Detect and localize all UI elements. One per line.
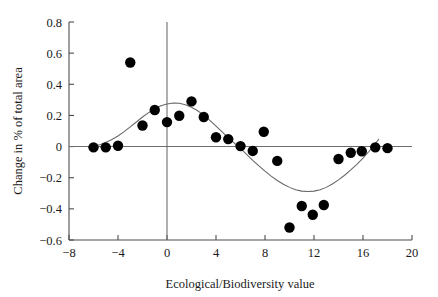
y-tick-label: 0.4	[46, 78, 62, 92]
y-tick-label: 0.2	[46, 109, 62, 123]
x-tick-marks	[69, 235, 412, 240]
x-tick-label: 4	[213, 246, 220, 260]
x-tick-label: 16	[357, 246, 370, 260]
y-tick-label: −0.4	[39, 202, 62, 216]
data-point	[125, 57, 135, 67]
data-point	[88, 142, 98, 152]
data-point	[297, 201, 307, 211]
y-tick-marks	[69, 22, 74, 240]
x-axis-label: Ecological/Biodiversity value	[166, 277, 315, 291]
data-point	[284, 222, 294, 232]
data-point	[357, 146, 367, 156]
data-point	[382, 143, 392, 153]
data-points	[88, 57, 392, 232]
scatter-plot: −8−4048121620 −0.6−0.4−0.200.20.40.60.8 …	[0, 0, 438, 297]
data-point	[333, 154, 343, 164]
x-tick-label: −4	[111, 246, 125, 260]
data-point	[186, 96, 196, 106]
y-tick-label: −0.6	[39, 234, 62, 248]
y-tick-labels: −0.6−0.4−0.200.20.40.60.8	[39, 16, 62, 248]
data-point	[162, 117, 172, 127]
data-point	[272, 156, 282, 166]
x-tick-label: 8	[262, 246, 268, 260]
data-point	[223, 134, 233, 144]
data-point	[346, 148, 356, 158]
y-tick-label: 0.6	[46, 47, 62, 61]
data-point	[113, 141, 123, 151]
chart-figure: −8−4048121620 −0.6−0.4−0.200.20.40.60.8 …	[0, 0, 438, 297]
data-point	[174, 111, 184, 121]
x-tick-label: 12	[308, 246, 321, 260]
data-point	[319, 200, 329, 210]
data-point	[199, 112, 209, 122]
data-point	[248, 146, 258, 156]
x-tick-labels: −8−4048121620	[62, 246, 418, 260]
y-tick-label: −0.2	[39, 171, 62, 185]
data-point	[308, 210, 318, 220]
y-tick-label: 0	[56, 140, 62, 154]
x-tick-label: 0	[164, 246, 170, 260]
y-tick-label: 0.8	[46, 16, 62, 30]
axis-frame	[69, 22, 412, 240]
data-point	[101, 142, 111, 152]
data-point	[259, 127, 269, 137]
data-point	[150, 105, 160, 115]
data-point	[370, 142, 380, 152]
x-tick-label: 20	[406, 246, 419, 260]
data-point	[211, 132, 221, 142]
data-point	[235, 141, 245, 151]
x-tick-label: −8	[62, 246, 75, 260]
y-axis-label: Change in % of total area	[11, 67, 25, 195]
data-point	[137, 120, 147, 130]
trend-line	[91, 103, 379, 192]
